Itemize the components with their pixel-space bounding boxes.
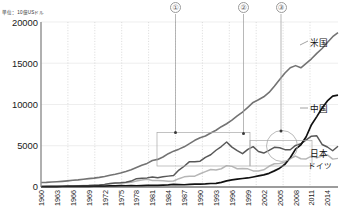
x-axis-tick: 2011 (307, 190, 316, 205)
x-axis-tick: 1966 (69, 190, 78, 206)
callout-2[interactable]: ② (238, 2, 249, 13)
callout-3[interactable]: ③ (276, 2, 287, 13)
x-axis-tick: 1975 (117, 190, 126, 206)
x-axis-tick: 1972 (101, 190, 110, 206)
x-axis-tick: 1963 (53, 190, 62, 206)
x-axis-tick: 1999 (244, 190, 253, 206)
x-axis-tick: 1984 (164, 190, 173, 206)
series-label-usa: 米国 (310, 36, 328, 48)
x-axis-tick: 1978 (132, 190, 141, 206)
x-axis-tick: 2014 (323, 190, 332, 206)
x-axis-tick: 1993 (212, 190, 221, 206)
series-label-japan: 日本 (310, 147, 328, 159)
x-axis-tick: 2002 (260, 190, 269, 206)
series-label-germany: ドイツ (308, 160, 332, 171)
x-axis-tick: 1987 (180, 190, 189, 206)
callout-1[interactable]: ① (170, 2, 181, 13)
x-axis-tick: 2008 (292, 190, 301, 206)
x-axis-tick: 1996 (228, 190, 237, 206)
chart-root: 単位：10億USドル 20000 15000 10000 5000 0 (0, 0, 344, 219)
x-axis-tick: 1969 (85, 190, 94, 206)
series-label-china: 中国 (310, 102, 328, 114)
x-axis-tick: 1960 (37, 190, 46, 206)
x-axis-tick: 1981 (148, 190, 157, 206)
x-axis-tick: 1990 (196, 190, 205, 206)
x-axis-tick: 2005 (276, 190, 285, 206)
chart-canvas (0, 0, 344, 219)
